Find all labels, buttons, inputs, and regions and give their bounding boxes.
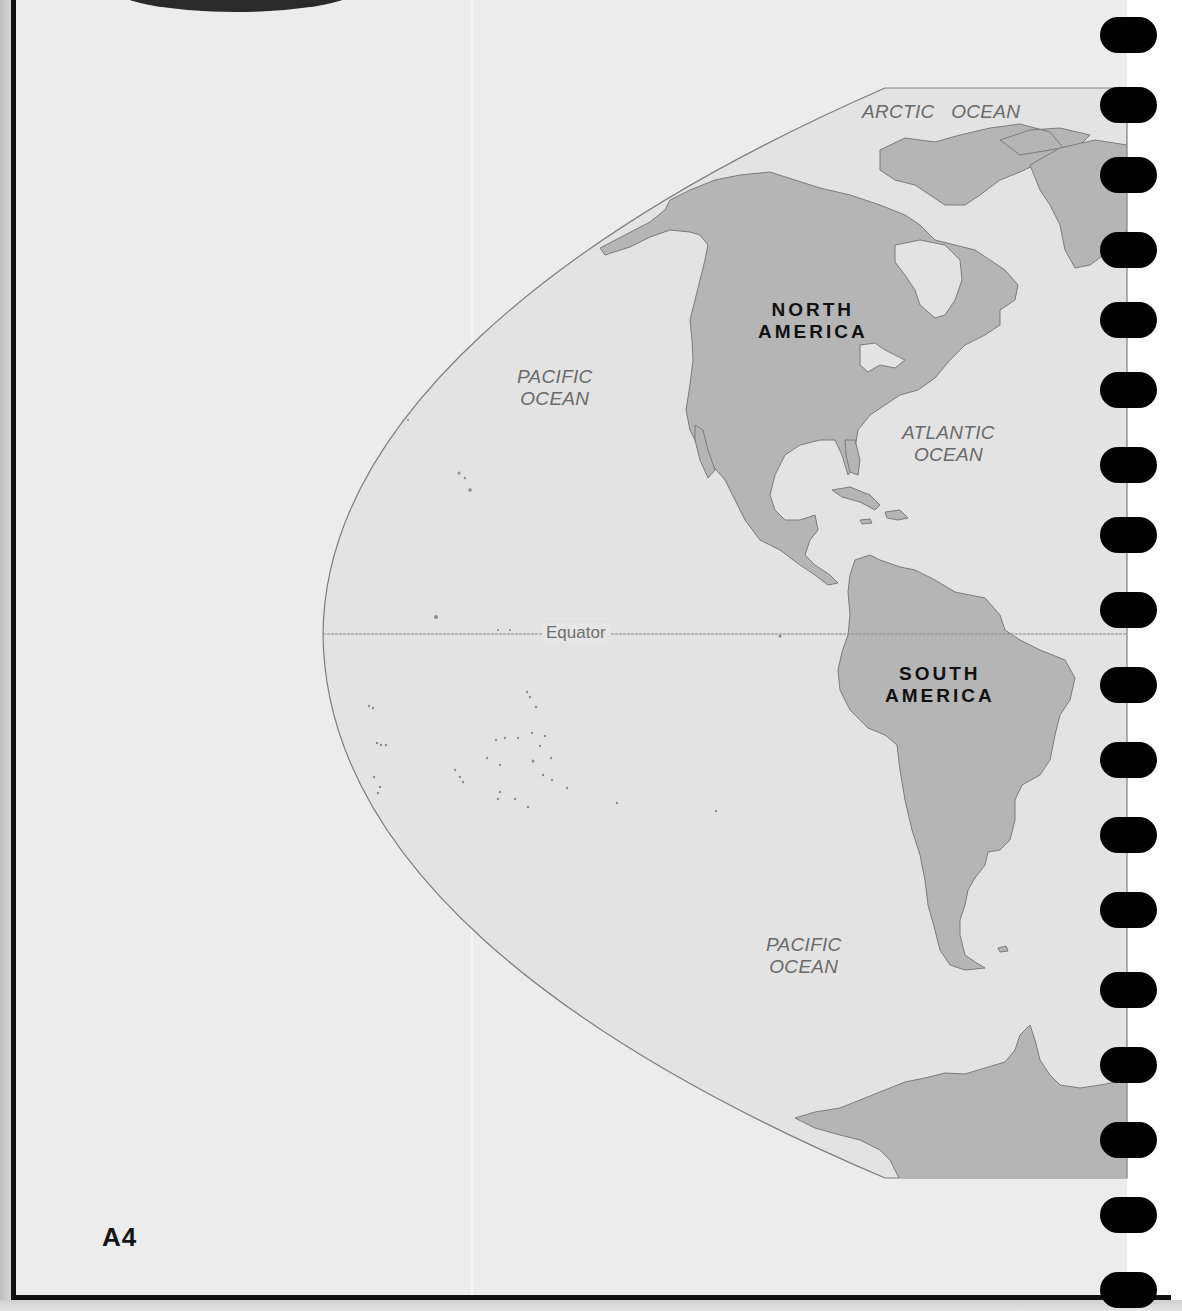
binding-hole [1100,372,1157,408]
arctic-ocean-label: ARCTIC OCEAN [862,101,1020,123]
south-america-label: SOUTH AMERICA [885,663,995,707]
binding-hole [1100,517,1157,553]
page-number: A4 [102,1222,137,1253]
page-border-left [11,0,16,1300]
equator-label: Equator [542,623,610,643]
world-map-western-hemisphere [0,0,1182,1311]
binding-hole [1100,302,1157,338]
atlantic-ocean-label: ATLANTIC OCEAN [902,422,995,466]
binding-hole [1100,1272,1157,1308]
binding-hole [1100,1122,1157,1158]
binding-hole [1100,87,1157,123]
pacific-ocean-south-label: PACIFIC OCEAN [766,934,842,978]
binding-hole [1100,742,1157,778]
jamaica [860,519,872,524]
binding-hole [1100,447,1157,483]
binding-hole [1100,157,1157,193]
binding-hole [1100,1197,1157,1233]
binding-hole [1100,817,1157,853]
page-bottom-shadow [0,1300,1182,1311]
binding-hole [1100,667,1157,703]
binding-hole [1100,232,1157,268]
north-america-label: NORTH AMERICA [758,299,868,343]
binding-hole [1100,972,1157,1008]
binding-hole [1100,892,1157,928]
binding-hole [1100,592,1157,628]
binding-hole [1100,17,1157,53]
pacific-ocean-north-label: PACIFIC OCEAN [517,366,593,410]
binding-hole [1100,1047,1157,1083]
